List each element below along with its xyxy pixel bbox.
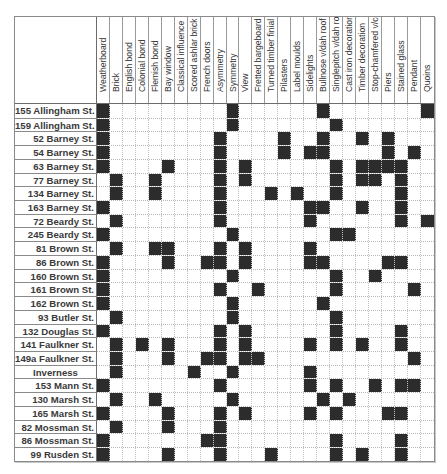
feature-cell-empty [175,311,188,324]
table-row: 159 Allingham St. [15,118,434,132]
feature-cell-empty [343,187,356,200]
feature-cell-empty [291,119,304,132]
feature-cell-empty [188,160,201,173]
feature-cell-empty [110,434,123,447]
feature-cell-empty [304,297,317,310]
feature-cell-empty [227,379,240,392]
feature-cell-empty [356,228,369,241]
feature-cell-empty [369,407,382,420]
feature-cell-filled [317,104,330,118]
feature-cell-filled [382,132,395,145]
feature-cell-filled [214,146,227,159]
feature-cell-filled [110,215,123,228]
feature-cell-filled [304,242,317,255]
row-label: 149a Faulkner St. [15,351,97,365]
feature-cell-empty [162,104,175,118]
feature-cell-empty [291,407,304,420]
feature-cell-empty [227,407,240,420]
feature-cell-filled [97,407,110,420]
feature-cell-empty [149,325,162,338]
column-header: Asymmetry [214,17,227,103]
feature-cell-empty [278,338,291,351]
column-header: French doors [201,17,214,103]
feature-cell-empty [149,201,162,214]
feature-cell-empty [421,379,434,392]
feature-cell-empty [175,283,188,296]
feature-cell-empty [343,421,356,434]
feature-cell-empty [175,448,188,461]
feature-cell-empty [252,104,265,118]
feature-cell-empty [252,160,265,173]
column-header-label: Timber decoration [358,23,367,92]
feature-cell-empty [201,325,214,338]
feature-cell-empty [421,187,434,200]
feature-cell-empty [136,174,149,187]
header-row: WeatherboardBrickEnglish bondColonial bo… [15,17,434,104]
feature-cell-empty [188,146,201,159]
feature-cell-empty [421,283,434,296]
feature-cell-empty [175,325,188,338]
feature-cell-empty [395,283,408,296]
feature-cell-empty [214,270,227,283]
column-header-label: Colonial bond [138,40,147,93]
feature-cell-empty [201,174,214,187]
feature-cell-empty [278,393,291,406]
feature-cell-empty [291,325,304,338]
feature-cell-filled [227,270,240,283]
feature-cell-empty [188,174,201,187]
feature-cell-empty [162,283,175,296]
feature-cell-empty [317,379,330,392]
feature-cell-empty [188,270,201,283]
feature-cell-filled [97,146,110,159]
feature-cell-empty [317,242,330,255]
feature-cell-empty [395,393,408,406]
feature-cell-empty [356,270,369,283]
feature-cell-filled [330,270,343,283]
feature-cell-empty [136,379,149,392]
feature-cell-empty [317,421,330,434]
feature-cell-empty [136,366,149,379]
feature-cell-filled [214,407,227,420]
feature-cell-empty [330,421,343,434]
feature-cell-empty [252,228,265,241]
feature-cell-empty [304,160,317,173]
row-label: 130 Marsh St. [15,392,97,406]
feature-cell-empty [369,146,382,159]
feature-cell-empty [265,201,278,214]
feature-cell-empty [188,352,201,365]
feature-cell-empty [356,146,369,159]
column-header: Turned timber finial [265,17,278,103]
feature-cell-empty [214,228,227,241]
feature-cell-empty [123,393,136,406]
feature-cell-empty [123,119,136,132]
row-label: 54 Barney St. [15,145,97,159]
column-header-label: Brick [112,73,121,92]
feature-cell-empty [188,407,201,420]
feature-cell-empty [343,215,356,228]
table-row: 54 Barney St. [15,145,434,159]
feature-cell-filled [330,448,343,461]
column-header-label: Scored ashlar brick [189,19,198,93]
feature-cell-filled [227,366,240,379]
feature-cell-filled [356,201,369,214]
column-header-label: Piers [384,73,393,93]
column-header: Cast iron decoration [343,17,356,103]
feature-cell-empty [395,270,408,283]
feature-cell-empty [201,297,214,310]
feature-cell-empty [291,448,304,461]
feature-cell-empty [162,393,175,406]
column-header-label: Weatherboard [99,38,108,92]
feature-cell-empty [369,338,382,351]
table-row: 134 Barney St. [15,186,434,200]
feature-cell-filled [330,187,343,200]
feature-cell-filled [110,421,123,434]
feature-cell-filled [149,393,162,406]
feature-cell-empty [421,338,434,351]
feature-cell-empty [201,407,214,420]
feature-cell-empty [278,174,291,187]
feature-cell-empty [201,270,214,283]
feature-cell-filled [395,379,408,392]
feature-cell-empty [136,352,149,365]
column-header-label: Stained glass [397,41,406,93]
feature-cell-empty [123,366,136,379]
